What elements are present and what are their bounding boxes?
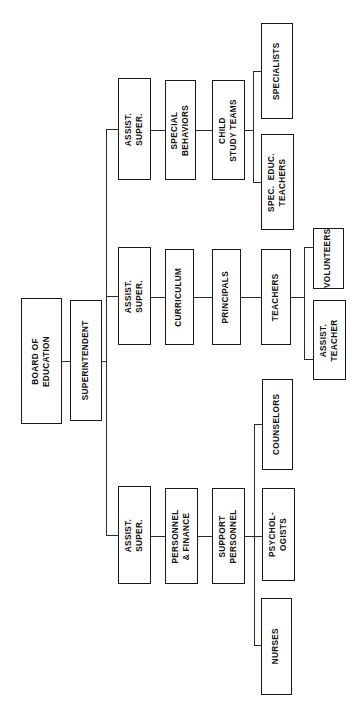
org-node-label-assist_teacher: ASSIST. TEACHER	[319, 319, 340, 361]
org-node-label-assist_super_1: ASSIST. SUPER.	[124, 112, 145, 145]
org-node-label-support: SUPPORT PERSONNEL	[218, 509, 239, 563]
org-node-principals[interactable]: PRINCIPALS	[212, 249, 241, 345]
connector-child-split-vertical	[253, 71, 254, 183]
org-chart-canvas: BOARD OF EDUCATIONSUPERINTENDENTASSIST. …	[0, 0, 354, 728]
connector-principals-to-teachers	[241, 297, 262, 298]
connector-assist2-to-curriculum	[151, 297, 166, 298]
org-node-label-nurses: NURSES	[271, 628, 282, 664]
connector-trunk-vertical	[106, 129, 107, 535]
connector-assist3-to-personnel	[151, 536, 166, 537]
org-node-label-counselors: COUNSELORS	[272, 394, 283, 455]
org-node-label-curriculum: CURRICULUM	[174, 268, 185, 327]
org-node-child_study[interactable]: CHILD STUDY TEAMS	[212, 80, 245, 180]
org-node-special_behaviors[interactable]: SPECIAL BEHAVIORS	[165, 80, 196, 180]
org-node-label-volunteers: VOLUNTEERS	[323, 229, 334, 288]
org-node-label-special_behaviors: SPECIAL BEHAVIORS	[170, 104, 191, 155]
org-node-support[interactable]: SUPPORT PERSONNEL	[212, 488, 245, 584]
org-node-label-personnel: PERSONNEL & FINANCE	[171, 509, 192, 563]
org-node-label-specialists: SPECIALISTS	[272, 42, 283, 100]
org-node-label-superintendent: SUPERINTENDENT	[81, 321, 92, 401]
org-node-label-assist_super_3: ASSIST. SUPER.	[124, 518, 145, 551]
connector-special-behaviors-to-child	[196, 130, 213, 131]
org-node-volunteers[interactable]: VOLUNTEERS	[313, 228, 344, 289]
org-node-label-assist_super_2: ASSIST. SUPER.	[124, 279, 145, 312]
connector-teachers-split-vertical	[304, 247, 305, 360]
org-node-label-board: BOARD OF EDUCATION	[31, 335, 52, 386]
connector-teachers-to-split	[291, 297, 305, 298]
org-node-board[interactable]: BOARD OF EDUCATION	[21, 298, 62, 424]
org-node-label-child_study: CHILD STUDY TEAMS	[218, 99, 239, 161]
org-node-label-principals: PRINCIPALS	[221, 271, 232, 323]
org-node-spec_educ[interactable]: SPEC. EDUC. TEACHERS	[261, 134, 294, 230]
org-node-specialists[interactable]: SPECIALISTS	[261, 23, 293, 119]
org-node-nurses[interactable]: NURSES	[261, 598, 292, 695]
org-node-assist_super_2[interactable]: ASSIST. SUPER.	[118, 247, 151, 345]
connector-support-split-vertical	[254, 424, 255, 646]
connector-assist1-to-special-behaviors	[151, 130, 166, 131]
org-node-superintendent[interactable]: SUPERINTENDENT	[70, 300, 102, 421]
connector-board-to-superintendent	[62, 361, 70, 362]
org-node-personnel[interactable]: PERSONNEL & FINANCE	[165, 488, 198, 584]
org-node-assist_super_1[interactable]: ASSIST. SUPER.	[118, 78, 151, 180]
connector-personnel-to-support	[198, 536, 213, 537]
connector-curriculum-to-principals	[194, 297, 213, 298]
org-node-label-spec_educ: SPEC. EDUC. TEACHERS	[267, 153, 288, 212]
org-node-assist_super_3[interactable]: ASSIST. SUPER.	[118, 486, 151, 584]
org-node-curriculum[interactable]: CURRICULUM	[165, 249, 194, 345]
org-node-label-psychologists: PSYCHOL- OGISTS	[268, 512, 289, 557]
org-node-label-teachers: TEACHERS	[271, 273, 282, 321]
org-node-teachers[interactable]: TEACHERS	[261, 249, 291, 345]
org-node-counselors[interactable]: COUNSELORS	[262, 379, 293, 470]
org-node-assist_teacher[interactable]: ASSIST. TEACHER	[313, 300, 346, 380]
org-node-psychologists[interactable]: PSYCHOL- OGISTS	[262, 488, 295, 581]
